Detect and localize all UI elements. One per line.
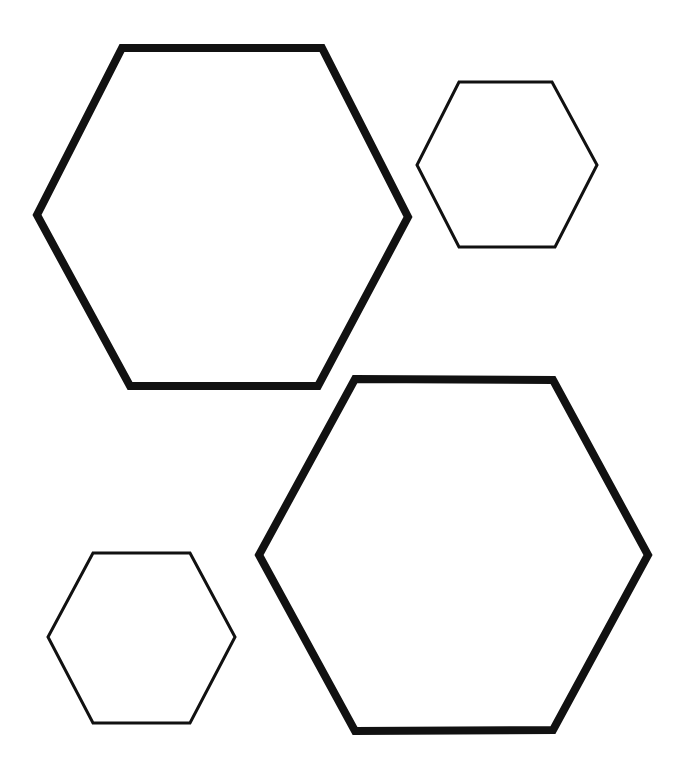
drawing-canvas bbox=[0, 0, 689, 776]
canvas-background bbox=[0, 0, 689, 776]
hexagon-figure bbox=[0, 0, 689, 776]
